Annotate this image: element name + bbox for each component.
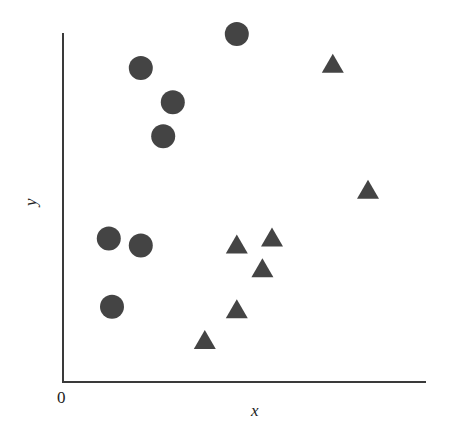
- circle-marker: [151, 124, 175, 148]
- y-axis-label: y: [21, 198, 40, 208]
- triangle-marker: [357, 180, 379, 199]
- circle-marker: [225, 22, 249, 46]
- triangle-marker: [251, 258, 273, 277]
- circle-marker: [100, 295, 124, 319]
- circle-marker: [161, 90, 185, 114]
- triangle-marker: [194, 330, 216, 349]
- circle-marker: [129, 233, 153, 257]
- data-markers: [97, 22, 379, 349]
- scatter-chart: 0 x y: [0, 0, 450, 434]
- triangle-marker: [226, 234, 248, 253]
- triangle-marker: [226, 299, 248, 318]
- triangle-marker: [322, 54, 344, 73]
- triangle-marker: [261, 228, 283, 247]
- origin-label: 0: [57, 388, 66, 407]
- x-axis-label: x: [250, 401, 259, 420]
- circle-marker: [129, 56, 153, 80]
- circle-marker: [97, 227, 121, 251]
